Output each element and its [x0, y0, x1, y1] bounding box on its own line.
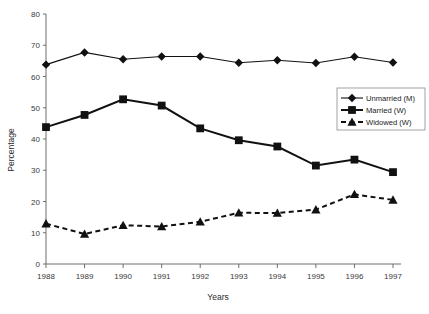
x-tick-label: 1993	[230, 272, 248, 281]
x-tick-label: 1989	[76, 272, 94, 281]
data-point-married	[235, 136, 243, 144]
x-tick-label: 1990	[114, 272, 132, 281]
y-tick-label: 10	[31, 229, 40, 238]
y-tick-label: 60	[31, 73, 40, 82]
x-tick-label: 1991	[153, 272, 171, 281]
legend-item-unmarried[interactable]: Unmarried (M)	[341, 94, 415, 103]
y-tick-label: 80	[31, 10, 40, 19]
data-point-married	[351, 156, 359, 164]
legend-item-married[interactable]: Married (W)	[341, 106, 407, 115]
data-point-married	[348, 106, 356, 114]
x-axis-title: Years	[207, 292, 228, 302]
y-tick-label: 20	[31, 198, 40, 207]
data-point-married	[389, 168, 397, 176]
data-point-married	[312, 162, 320, 170]
chart-container: 01020304050607080 1988198919901991199219…	[0, 0, 429, 314]
y-tick-label: 30	[31, 166, 40, 175]
x-tick-label: 1994	[268, 272, 286, 281]
y-tick-label: 70	[31, 41, 40, 50]
data-point-married	[158, 102, 166, 110]
y-tick-label: 40	[31, 135, 40, 144]
y-tick-label: 0	[36, 260, 41, 269]
chart-legend: Unmarried (M)Married (W)Widowed (W)	[337, 88, 425, 130]
data-point-married	[273, 143, 281, 151]
legend-label: Unmarried (M)	[366, 94, 415, 103]
x-tick-label: 1992	[191, 272, 209, 281]
legend-label: Widowed (W)	[366, 118, 412, 127]
x-tick-label: 1988	[37, 272, 55, 281]
y-tick-label: 50	[31, 104, 40, 113]
x-tick-label: 1995	[307, 272, 325, 281]
data-point-married	[81, 111, 89, 119]
line-chart: 01020304050607080 1988198919901991199219…	[0, 0, 429, 314]
chart-background	[0, 0, 429, 314]
legend-item-widowed[interactable]: Widowed (W)	[341, 117, 412, 126]
y-axis-title: Percentage	[6, 128, 16, 172]
legend-label: Married (W)	[366, 106, 407, 115]
data-point-married	[119, 95, 127, 103]
x-tick-label: 1996	[346, 272, 364, 281]
data-point-married	[42, 123, 50, 131]
x-tick-label: 1997	[384, 272, 402, 281]
data-point-married	[196, 124, 204, 132]
